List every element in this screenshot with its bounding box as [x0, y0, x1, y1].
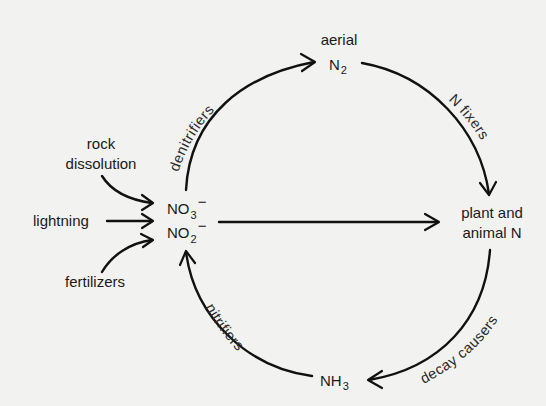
arrow-rock-dissolution — [102, 176, 153, 210]
n2-formula: N2 — [329, 56, 347, 76]
source-lightning: lightning — [33, 212, 89, 229]
process-decay-causers: decay causers — [417, 312, 500, 387]
no2-formula: NO2− — [167, 217, 207, 245]
animal-n-label: animal N — [462, 224, 521, 241]
process-denitrifiers: denitrifiers — [166, 101, 217, 173]
process-nitrifiers: nitrifiers — [203, 301, 248, 354]
node-nh3: NH3 — [320, 372, 349, 392]
node-aerial-n2: aerial N2 — [321, 31, 358, 76]
aerial-label: aerial — [321, 31, 358, 48]
node-plant-animal-n: plant and animal N — [461, 204, 523, 241]
dissolution-label: dissolution — [66, 155, 137, 172]
arrow-assimilation — [219, 214, 439, 230]
source-rock-dissolution: rock dissolution — [66, 135, 137, 172]
rock-label: rock — [87, 135, 116, 152]
node-nitrate-nitrite: NO3− NO2− — [167, 193, 207, 245]
plant-and-label: plant and — [461, 204, 523, 221]
nitrogen-cycle-diagram: aerial N2 plant and animal N NH3 NO3− NO… — [0, 0, 546, 406]
nh3-formula: NH3 — [320, 372, 349, 392]
arrow-fertilizers — [102, 234, 153, 272]
arrow-lightning — [107, 214, 153, 228]
arc-nitrifiers — [180, 251, 312, 376]
source-fertilizers: fertilizers — [65, 273, 125, 290]
